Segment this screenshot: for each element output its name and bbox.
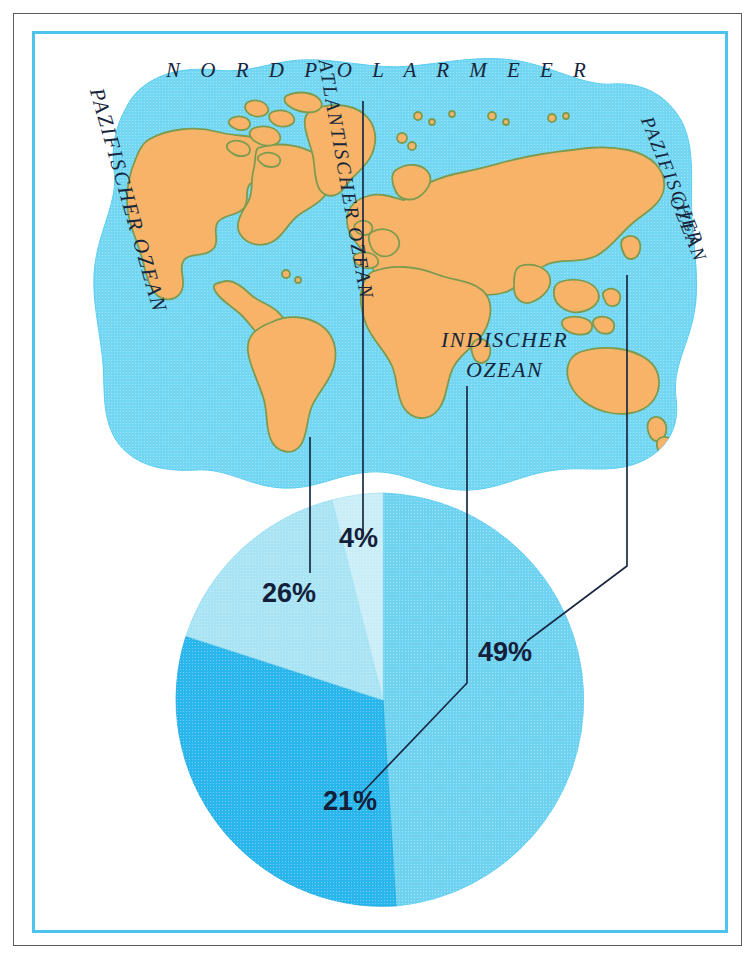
map-label-indian-ocean-line2: OZEAN (441, 355, 568, 385)
pie-label-pacific-percent: 49% (478, 637, 532, 668)
arctic-islet-9 (408, 142, 416, 150)
map-label-indian-ocean: INDISCHER OZEAN (441, 325, 568, 385)
arctic-island-a (245, 100, 268, 116)
new-zealand-landmass-2 (657, 437, 673, 455)
pie-label-atlantic-percent: 26% (262, 578, 316, 609)
sea-asia-landmass (554, 280, 599, 313)
arctic-islet-1 (414, 112, 422, 120)
map-label-indian-ocean-line1: INDISCHER (441, 325, 568, 355)
arctic-islet-7 (563, 113, 569, 119)
philippines-landmass (603, 289, 620, 306)
pie-chart (176, 493, 590, 907)
arctic-islet-8 (397, 133, 407, 143)
caribbean-islet-1 (282, 270, 290, 278)
arctic-island-b (269, 110, 294, 126)
caribbean-islet-2 (295, 277, 301, 283)
map-label-arctic-ocean: N O R D P O L A R M E E R (166, 58, 593, 83)
arctic-islet-2 (429, 119, 435, 125)
pie-label-indian-percent: 21% (323, 786, 377, 817)
japan-landmass (621, 236, 640, 259)
arctic-islet-5 (503, 119, 509, 125)
arctic-islet-6 (548, 114, 556, 122)
arctic-islet-4 (488, 112, 496, 120)
pie-label-arctic-percent: 4% (339, 523, 378, 554)
figure-page: N O R D P O L A R M E E R PAZIFISCHER OZ… (0, 0, 756, 959)
arctic-islet-3 (449, 111, 455, 117)
